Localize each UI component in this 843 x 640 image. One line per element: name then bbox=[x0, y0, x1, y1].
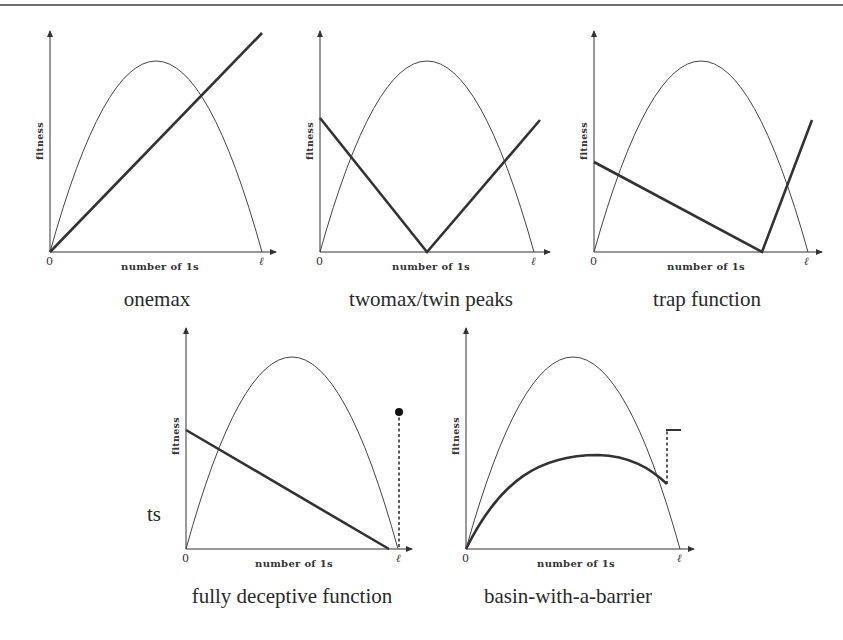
x-end-label: ℓ bbox=[531, 255, 536, 268]
panel-deceptive: 0 ℓ number of 1s fitness bbox=[170, 328, 412, 569]
panel-twomax: 0 ℓ number of 1s fitness bbox=[304, 31, 550, 272]
y-axis-label: fitness bbox=[170, 417, 181, 455]
reference-parabola bbox=[466, 357, 680, 549]
fitness-curve bbox=[50, 33, 262, 252]
x-start-label: 0 bbox=[462, 552, 469, 565]
panel-onemax: 0 ℓ number of 1s fitness bbox=[34, 31, 276, 272]
y-axis-label: fitness bbox=[578, 122, 589, 160]
x-axis-label: number of 1s bbox=[392, 261, 470, 272]
x-start-label: 0 bbox=[182, 552, 189, 565]
caption-basin: basin-with-a-barrier bbox=[484, 584, 652, 609]
fitness-curve bbox=[186, 430, 389, 549]
x-end-label: ℓ bbox=[259, 255, 264, 268]
y-axis-label: fitness bbox=[450, 417, 461, 455]
x-end-label: ℓ bbox=[396, 552, 401, 565]
panel-basin: 0 ℓ number of 1s fitness bbox=[450, 328, 694, 569]
x-axis-label: number of 1s bbox=[537, 558, 615, 569]
x-start-label: 0 bbox=[590, 255, 597, 268]
figure: 0 ℓ number of 1s fitness 0 ℓ number of 1… bbox=[0, 0, 843, 640]
caption-onemax: onemax bbox=[124, 287, 190, 312]
plots-canvas: 0 ℓ number of 1s fitness 0 ℓ number of 1… bbox=[0, 0, 843, 640]
caption-deceptive: fully deceptive function bbox=[192, 584, 393, 609]
y-axis-label: fitness bbox=[34, 122, 45, 160]
fitness-curve bbox=[594, 120, 812, 252]
reference-parabola bbox=[594, 61, 808, 252]
reference-parabola bbox=[186, 357, 398, 549]
caption-trap: trap function bbox=[653, 287, 761, 312]
isolated-optimum-dot bbox=[395, 408, 403, 416]
x-end-label: ℓ bbox=[677, 552, 682, 565]
x-start-label: 0 bbox=[316, 255, 323, 268]
panel-trap: 0 ℓ number of 1s fitness bbox=[578, 31, 822, 272]
x-axis-label: number of 1s bbox=[121, 261, 199, 272]
caption-twomax: twomax/twin peaks bbox=[349, 287, 513, 312]
fitness-curve bbox=[466, 455, 667, 549]
x-axis-label: number of 1s bbox=[667, 261, 745, 272]
reference-parabola bbox=[50, 61, 262, 252]
x-axis-label: number of 1s bbox=[255, 558, 333, 569]
stray-text-fragment: ts bbox=[147, 502, 161, 527]
x-end-label: ℓ bbox=[804, 255, 809, 268]
y-axis-label: fitness bbox=[304, 122, 315, 160]
x-start-label: 0 bbox=[46, 255, 53, 268]
fitness-curve bbox=[320, 118, 540, 252]
